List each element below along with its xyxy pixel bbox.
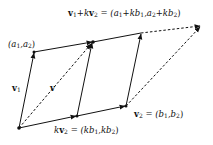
- label-v1-plus-kv2: v1+kv2 = (a1+kb1,a2+kb2): [68, 9, 181, 18]
- vector-diagram: [0, 0, 213, 145]
- label-point-a: (a1,a2): [8, 40, 35, 49]
- point-v1-plus-kv2: [91, 40, 95, 44]
- dashed-diagonal: [126, 27, 200, 106]
- label-v: v: [50, 84, 55, 93]
- point-kv2: [76, 115, 79, 118]
- label-v2: v2 = (b1,b2): [134, 110, 183, 119]
- label-v1: v1: [12, 84, 21, 93]
- dashed-top-edge: [141, 26, 200, 33]
- vector-v1-shifted-v2: [126, 34, 141, 106]
- label-kv2: kv2 = (kb1,kb2): [54, 126, 119, 135]
- vector-v2-continuation: [77, 106, 125, 116]
- vector-v1: [19, 53, 34, 128]
- vector-top-kv2: [34, 42, 92, 52]
- vector-v1-shifted-kv2: [77, 43, 92, 116]
- origin-point: [17, 126, 21, 130]
- vector-top-segment: [93, 33, 141, 42]
- point-v2: [125, 105, 128, 108]
- point-a: [33, 51, 36, 54]
